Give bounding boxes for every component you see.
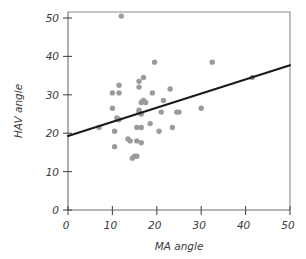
scatter-plot-figure: 01020304050 01020304050 MA angle HAV ang… xyxy=(0,0,306,259)
data-point xyxy=(130,155,135,160)
x-tick-label: 30 xyxy=(193,219,207,231)
data-point xyxy=(174,109,179,114)
data-point xyxy=(150,90,155,95)
data-point xyxy=(112,129,117,134)
x-tick-label: 10 xyxy=(104,219,118,231)
data-point xyxy=(210,59,215,64)
x-tick-label: 20 xyxy=(148,219,162,231)
x-tick-label: 40 xyxy=(237,219,251,231)
x-tick-label: 0 xyxy=(63,219,70,231)
data-point xyxy=(112,144,117,149)
data-point xyxy=(110,106,115,111)
data-point xyxy=(139,125,144,130)
data-point xyxy=(199,106,204,111)
plot-canvas: 01020304050 01020304050 MA angle HAV ang… xyxy=(0,0,306,259)
data-point xyxy=(141,75,146,80)
data-point xyxy=(143,100,148,105)
data-points-layer xyxy=(96,13,255,160)
data-point xyxy=(139,140,144,145)
y-tick-label: 40 xyxy=(46,50,60,62)
data-point xyxy=(136,84,141,89)
y-tick-label: 0 xyxy=(52,204,59,216)
data-point xyxy=(116,83,121,88)
x-axis-title: MA angle xyxy=(155,240,204,252)
data-point xyxy=(167,86,172,91)
data-point xyxy=(136,79,141,84)
y-axis-title: HAV angle xyxy=(12,84,24,138)
y-tick-label: 50 xyxy=(46,12,60,24)
data-point xyxy=(127,138,132,143)
y-tick-label: 20 xyxy=(46,127,60,139)
data-point xyxy=(161,98,166,103)
data-point xyxy=(170,125,175,130)
data-point xyxy=(147,121,152,126)
data-point xyxy=(159,109,164,114)
data-point xyxy=(152,59,157,64)
data-point xyxy=(119,13,124,18)
x-tick-label: 50 xyxy=(281,219,295,231)
y-tick-label: 30 xyxy=(46,89,60,101)
y-tick-label: 10 xyxy=(46,166,60,178)
data-point xyxy=(156,129,161,134)
regression-line xyxy=(68,65,290,136)
data-point xyxy=(116,90,121,95)
data-point xyxy=(110,90,115,95)
